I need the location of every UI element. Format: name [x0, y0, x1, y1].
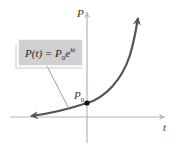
p-axis-label: P [76, 7, 84, 19]
t-axis-label: t [163, 121, 167, 133]
leader-line [47, 66, 68, 107]
p0-label: P0 [73, 89, 85, 104]
exponential-growth-diagram: P(t) = P0ekt P t P0 [0, 0, 178, 149]
growth-curve-left [31, 103, 87, 116]
growth-curve-right [87, 18, 138, 103]
diagram-svg: P(t) = P0ekt P t P0 [0, 0, 178, 149]
p0-intercept-dot [84, 100, 89, 105]
